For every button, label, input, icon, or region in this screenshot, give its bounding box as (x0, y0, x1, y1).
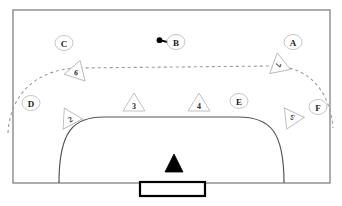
position-label-e[interactable]: E (230, 94, 248, 109)
position-e-text: E (236, 97, 242, 107)
position-label-b[interactable]: B (167, 35, 185, 50)
position-a-text: A (290, 38, 297, 48)
position-f-text: F (315, 103, 321, 113)
position-c-text: C (61, 39, 68, 49)
position-b-text: B (173, 38, 179, 48)
handball-court-diagram: A B C D E F 2 3 (0, 0, 342, 206)
player-3-number: 3 (132, 102, 136, 111)
ball-icon (157, 37, 163, 43)
goal (140, 182, 205, 196)
player-4-number: 4 (197, 102, 201, 111)
position-d-text: D (28, 99, 35, 109)
position-label-f[interactable]: F (309, 100, 327, 115)
position-label-c[interactable]: C (55, 36, 73, 51)
court-canvas: A B C D E F 2 3 (0, 0, 342, 206)
position-label-d[interactable]: D (22, 96, 40, 111)
position-label-a[interactable]: A (284, 35, 302, 50)
